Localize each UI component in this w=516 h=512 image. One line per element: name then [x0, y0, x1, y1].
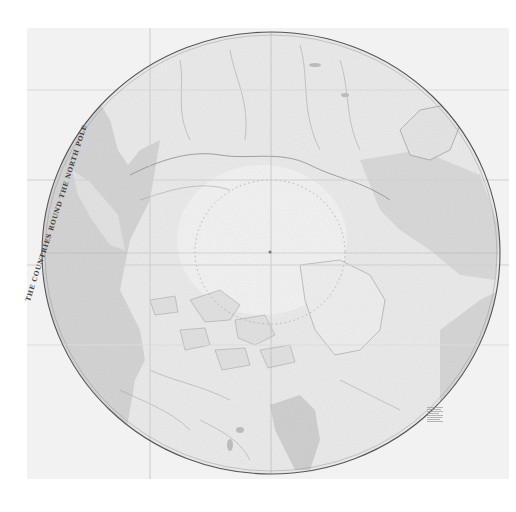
- legend-block: [427, 407, 443, 447]
- north-pole-marker: [269, 251, 272, 254]
